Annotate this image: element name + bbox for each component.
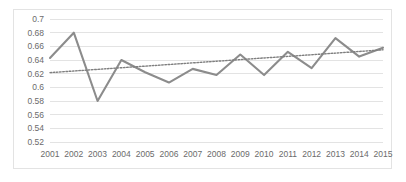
gridlines — [50, 19, 383, 142]
y-axis-tick-label: 0.56 — [14, 111, 44, 120]
x-axis-tick-label: 2004 — [108, 150, 134, 159]
y-axis-tick-label: 0.6 — [14, 83, 44, 92]
chart-card: 0.70.680.660.640.620.60.580.560.540.52 2… — [0, 0, 406, 182]
x-axis-tick-label: 2011 — [275, 150, 301, 159]
line-chart-svg — [14, 10, 393, 170]
x-axis-tick-label: 2007 — [180, 150, 206, 159]
y-axis-tick-label: 0.66 — [14, 42, 44, 51]
x-axis-tick-label: 2012 — [299, 150, 325, 159]
chart-plot-frame: 0.70.680.660.640.620.60.580.560.540.52 2… — [13, 9, 392, 169]
y-axis-tick-label: 0.52 — [14, 138, 44, 147]
plot-area: 0.70.680.660.640.620.60.580.560.540.52 2… — [14, 10, 393, 170]
x-axis-tick-label: 2003 — [85, 150, 111, 159]
series-line-path — [50, 33, 383, 101]
y-axis-tick-label: 0.64 — [14, 56, 44, 65]
x-axis-tick-label: 2013 — [322, 150, 348, 159]
x-axis-tick-label: 2005 — [132, 150, 158, 159]
x-axis-tick-label: 2009 — [227, 150, 253, 159]
x-axis-tick-label: 2008 — [204, 150, 230, 159]
y-axis-tick-label: 0.7 — [14, 15, 44, 24]
y-axis-tick-label: 0.54 — [14, 124, 44, 133]
y-axis-tick-label: 0.62 — [14, 70, 44, 79]
x-axis-tick-label: 2010 — [251, 150, 277, 159]
y-axis-tick-label: 0.68 — [14, 29, 44, 38]
x-axis-tick-label: 2002 — [61, 150, 87, 159]
x-axis-tick-label: 2014 — [346, 150, 372, 159]
y-axis-tick-label: 0.58 — [14, 97, 44, 106]
x-axis-tick-label: 2015 — [370, 150, 396, 159]
series-layer — [50, 33, 383, 101]
x-axis-tick-label: 2006 — [156, 150, 182, 159]
trendline-path — [50, 50, 383, 73]
x-axis-tick-label: 2001 — [37, 150, 63, 159]
